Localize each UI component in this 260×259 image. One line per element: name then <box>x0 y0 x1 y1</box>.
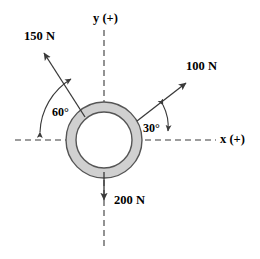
angle-arc-30 <box>163 105 168 131</box>
x-axis-label: x (+) <box>220 133 245 146</box>
force-diagram: 150 N 100 N 200 N 60° 30° x (+) y (+) <box>0 0 260 259</box>
force-label-200: 200 N <box>114 194 145 207</box>
angle-label-60: 60° <box>52 106 69 118</box>
y-axis-label: y (+) <box>93 12 118 25</box>
force-vector-100 <box>137 83 186 121</box>
force-label-150: 150 N <box>24 30 55 43</box>
force-label-100: 100 N <box>186 60 217 73</box>
ring-inner <box>76 112 132 168</box>
angle-label-30: 30° <box>143 122 160 134</box>
